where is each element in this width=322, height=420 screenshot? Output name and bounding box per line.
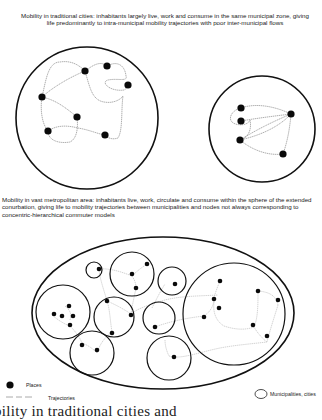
place-dot	[236, 136, 243, 143]
place-dot	[68, 323, 73, 328]
place-dot	[44, 127, 51, 134]
metropolitan-area	[32, 237, 294, 389]
place-dot	[105, 299, 110, 304]
traditional-city-left	[16, 47, 158, 189]
legend	[6, 381, 267, 398]
place-dot	[124, 81, 131, 88]
place-dot	[52, 312, 57, 317]
place-dot	[279, 150, 286, 157]
legend-trajectories-label: Trajectories	[48, 395, 75, 401]
trajectory-path	[52, 264, 278, 357]
place-dot	[95, 348, 100, 353]
municipality-circle	[158, 267, 186, 295]
place-dot	[153, 325, 158, 330]
trajectory-path	[230, 106, 291, 155]
municipality-circle	[36, 285, 90, 339]
place-dot	[80, 343, 85, 348]
place-dot	[103, 62, 110, 69]
place-dot	[134, 286, 139, 291]
legend-municipality-icon	[255, 390, 267, 399]
place-dot	[81, 67, 88, 74]
place-dot	[276, 298, 281, 303]
municipality-circle	[209, 76, 315, 182]
place-dot	[265, 334, 270, 339]
place-dot	[218, 279, 223, 284]
traditional-city-right	[209, 76, 315, 182]
municipality-circle	[143, 302, 175, 334]
municipality-circle	[183, 263, 285, 365]
place-dot	[237, 117, 244, 124]
place-dot	[60, 314, 65, 319]
municipality-circle	[94, 297, 134, 337]
place-dot	[173, 282, 178, 287]
place-dot	[145, 262, 150, 267]
footer-caption-fragment: bility in traditional cities and	[0, 403, 177, 420]
place-dot	[73, 113, 80, 120]
place-dot	[71, 314, 76, 319]
place-dot	[287, 110, 294, 117]
place-dot	[110, 331, 115, 336]
place-dot	[237, 104, 244, 111]
place-dot	[130, 272, 135, 277]
municipality-circle	[70, 331, 114, 375]
place-dot	[217, 306, 222, 311]
place-dot	[256, 289, 261, 294]
legend-place-icon	[6, 381, 13, 388]
place-dot	[129, 313, 134, 318]
place-dot	[251, 323, 256, 328]
municipality-circle	[147, 336, 191, 380]
metropolitan-area-caption: Mobility in vast metropolitan area: inha…	[2, 196, 320, 218]
legend-municipalities-label: Municipalities, cities	[270, 391, 316, 397]
place-dot	[67, 304, 72, 309]
conurbation-ellipse	[32, 237, 294, 389]
place-dot	[38, 93, 45, 100]
place-dot	[202, 315, 207, 320]
place-dot	[97, 267, 102, 272]
legend-places-label: Places	[26, 382, 42, 388]
places-group	[236, 104, 294, 157]
place-dot	[172, 355, 177, 360]
place-dot	[101, 131, 108, 138]
place-dot	[212, 297, 217, 302]
